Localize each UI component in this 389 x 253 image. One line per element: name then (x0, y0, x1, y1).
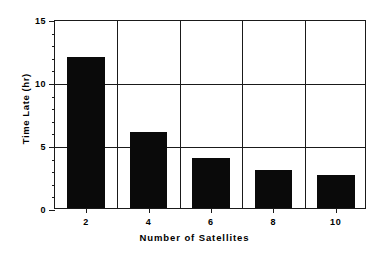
plot-area: 051015246810 (54, 20, 366, 209)
x-tick-major (336, 208, 337, 213)
category-separator (180, 21, 181, 208)
y-tick-label: 15 (35, 16, 46, 26)
y-tick-minor (52, 34, 56, 35)
x-tick-label: 4 (146, 217, 152, 227)
bar (255, 170, 292, 208)
x-tick-major (86, 208, 87, 213)
y-tick-minor (52, 97, 56, 98)
x-tick-major (211, 208, 212, 213)
y-tick-label: 0 (40, 205, 46, 215)
x-axis-title: Number of Satellites (0, 232, 389, 243)
category-separator (242, 21, 243, 208)
y-tick-minor (52, 46, 56, 47)
x-tick-label: 10 (330, 217, 342, 227)
y-tick-minor (52, 160, 56, 161)
category-separator (305, 21, 306, 208)
y-tick-minor (52, 185, 56, 186)
y-axis-title: Time Late (hr) (21, 49, 31, 169)
bar (130, 132, 167, 208)
bar (67, 57, 104, 208)
y-tick-minor (52, 122, 56, 123)
x-tick-major (149, 208, 150, 213)
y-tick-label: 10 (35, 79, 46, 89)
y-tick-minor (52, 59, 56, 60)
bar-chart-figure: Time Late (hr) 051015246810 Number of Sa… (0, 0, 389, 253)
y-tick-minor (52, 172, 56, 173)
y-tick-minor (52, 197, 56, 198)
x-tick-label: 8 (270, 217, 276, 227)
y-tick-major (49, 147, 55, 148)
bar (317, 175, 354, 208)
y-tick-label: 5 (40, 142, 46, 152)
y-tick-minor (52, 134, 56, 135)
x-tick-label: 6 (208, 217, 214, 227)
x-tick-label: 2 (83, 217, 89, 227)
category-separator (117, 21, 118, 208)
y-tick-major (49, 84, 55, 85)
y-tick-major (49, 21, 55, 22)
x-tick-major (273, 208, 274, 213)
y-tick-minor (52, 71, 56, 72)
y-tick-minor (52, 109, 56, 110)
bar (192, 158, 229, 208)
y-tick-major (49, 210, 55, 211)
